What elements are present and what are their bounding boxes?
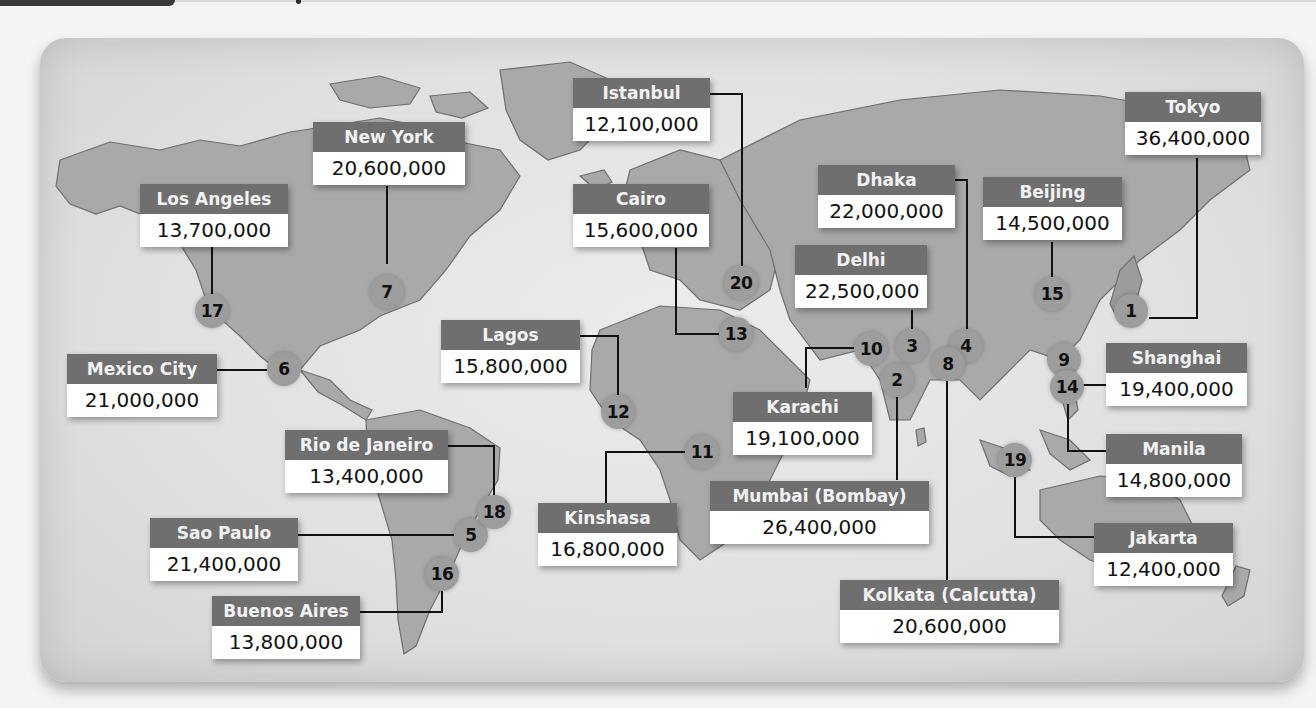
city-population: 36,400,000 xyxy=(1125,122,1261,155)
city-name: Rio de Janeiro xyxy=(285,430,448,460)
city-name: Dhaka xyxy=(818,165,955,195)
city-name: Kinshasa xyxy=(538,503,677,533)
callout-jakarta[interactable]: Jakarta 12,400,000 xyxy=(1094,523,1233,586)
marker-los-angeles[interactable]: 17 xyxy=(195,294,229,328)
callout-lagos[interactable]: Lagos 15,800,000 xyxy=(441,320,580,383)
callout-sao-paulo[interactable]: Sao Paulo 21,400,000 xyxy=(150,518,298,581)
city-name: Kolkata (Calcutta) xyxy=(840,580,1059,610)
marker-cairo[interactable]: 13 xyxy=(719,317,753,351)
marker-beijing[interactable]: 15 xyxy=(1035,277,1069,311)
city-population: 19,100,000 xyxy=(733,422,872,455)
callout-shanghai[interactable]: Shanghai 19,400,000 xyxy=(1106,343,1247,406)
marker-buenos-aires[interactable]: 16 xyxy=(425,557,459,591)
city-name: Beijing xyxy=(983,177,1122,207)
city-population: 20,600,000 xyxy=(840,610,1059,643)
callout-new-york[interactable]: New York 20,600,000 xyxy=(313,122,465,185)
city-name: Mexico City xyxy=(67,354,217,384)
callout-los-angeles[interactable]: Los Angeles 13,700,000 xyxy=(140,184,288,247)
marker-istanbul[interactable]: 20 xyxy=(724,266,758,300)
city-population: 14,800,000 xyxy=(1106,464,1242,497)
header-marker xyxy=(296,0,301,4)
marker-mexico-city[interactable]: 6 xyxy=(267,352,301,386)
callout-mumbai[interactable]: Mumbai (Bombay) 26,400,000 xyxy=(710,481,929,544)
callout-dhaka[interactable]: Dhaka 22,000,000 xyxy=(818,165,955,228)
callout-kinshasa[interactable]: Kinshasa 16,800,000 xyxy=(538,503,677,566)
callout-buenos-aires[interactable]: Buenos Aires 13,800,000 xyxy=(212,596,360,659)
city-population: 19,400,000 xyxy=(1106,373,1247,406)
city-name: Istanbul xyxy=(573,78,710,108)
city-name: Shanghai xyxy=(1106,343,1247,373)
marker-kolkata[interactable]: 8 xyxy=(931,347,965,381)
city-name: Tokyo xyxy=(1125,92,1261,122)
city-population: 15,600,000 xyxy=(573,214,709,247)
page-edge xyxy=(0,0,1316,2)
city-name: Los Angeles xyxy=(140,184,288,214)
callout-manila[interactable]: Manila 14,800,000 xyxy=(1106,434,1242,497)
city-population: 13,700,000 xyxy=(140,214,288,247)
callout-kolkata[interactable]: Kolkata (Calcutta) 20,600,000 xyxy=(840,580,1059,643)
marker-rio-de-janeiro[interactable]: 18 xyxy=(477,495,511,529)
city-population: 22,000,000 xyxy=(818,195,955,228)
city-name: Karachi xyxy=(733,392,872,422)
city-name: Cairo xyxy=(573,184,709,214)
header-tab xyxy=(0,0,175,6)
marker-karachi[interactable]: 10 xyxy=(854,332,888,366)
city-population: 12,400,000 xyxy=(1094,553,1233,586)
city-population: 20,600,000 xyxy=(313,152,465,185)
city-population: 26,400,000 xyxy=(710,511,929,544)
callout-delhi[interactable]: Delhi 22,500,000 xyxy=(795,245,927,308)
city-population: 14,500,000 xyxy=(983,207,1122,240)
city-population: 12,100,000 xyxy=(573,108,710,141)
city-population: 13,800,000 xyxy=(212,626,360,659)
marker-manila[interactable]: 14 xyxy=(1050,370,1084,404)
city-name: Manila xyxy=(1106,434,1242,464)
city-name: Lagos xyxy=(441,320,580,350)
city-population: 21,000,000 xyxy=(67,384,217,417)
callout-istanbul[interactable]: Istanbul 12,100,000 xyxy=(573,78,710,141)
callout-mexico-city[interactable]: Mexico City 21,000,000 xyxy=(67,354,217,417)
marker-kinshasa[interactable]: 11 xyxy=(685,435,719,469)
city-name: Mumbai (Bombay) xyxy=(710,481,929,511)
callout-tokyo[interactable]: Tokyo 36,400,000 xyxy=(1125,92,1261,155)
callout-beijing[interactable]: Beijing 14,500,000 xyxy=(983,177,1122,240)
city-population: 16,800,000 xyxy=(538,533,677,566)
marker-lagos[interactable]: 12 xyxy=(601,395,635,429)
city-population: 15,800,000 xyxy=(441,350,580,383)
callout-cairo[interactable]: Cairo 15,600,000 xyxy=(573,184,709,247)
marker-mumbai[interactable]: 2 xyxy=(880,363,914,397)
callout-karachi[interactable]: Karachi 19,100,000 xyxy=(733,392,872,455)
city-name: Buenos Aires xyxy=(212,596,360,626)
city-name: Jakarta xyxy=(1094,523,1233,553)
marker-new-york[interactable]: 7 xyxy=(370,275,404,309)
city-name: New York xyxy=(313,122,465,152)
city-name: Delhi xyxy=(795,245,927,275)
city-population: 13,400,000 xyxy=(285,460,448,493)
marker-jakarta[interactable]: 19 xyxy=(998,443,1032,477)
city-population: 21,400,000 xyxy=(150,548,298,581)
marker-delhi[interactable]: 3 xyxy=(895,329,929,363)
callout-rio-de-janeiro[interactable]: Rio de Janeiro 13,400,000 xyxy=(285,430,448,493)
marker-tokyo[interactable]: 1 xyxy=(1114,294,1148,328)
city-population: 22,500,000 xyxy=(795,275,927,308)
city-name: Sao Paulo xyxy=(150,518,298,548)
